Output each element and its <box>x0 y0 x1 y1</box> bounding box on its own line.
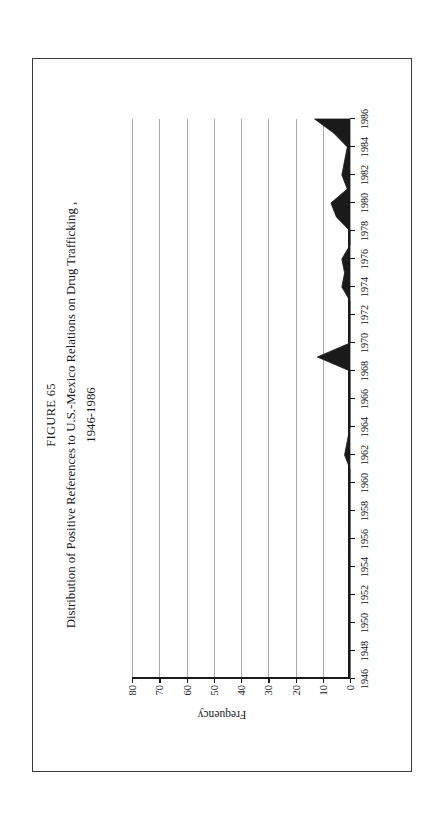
x-tick-mark <box>350 258 355 259</box>
x-tick-label: 1962 <box>359 445 370 465</box>
rotated-figure-wrapper: FIGURE 65 Distribution of Positive Refer… <box>36 65 408 765</box>
y-tick-label: 60 <box>181 685 192 696</box>
x-tick-label: 1956 <box>359 529 370 549</box>
x-tick-label: 1954 <box>359 557 370 577</box>
y-tick-label: 40 <box>236 685 247 696</box>
x-tick-label: 1972 <box>359 305 370 325</box>
x-tick-mark <box>350 650 355 651</box>
x-tick-label: 1950 <box>359 613 370 633</box>
x-tick-mark <box>350 482 355 483</box>
x-tick-label: 1966 <box>359 389 370 409</box>
x-tick-mark <box>350 426 355 427</box>
x-tick-label: 1984 <box>359 137 370 157</box>
x-axis-line <box>348 119 350 679</box>
x-tick-mark <box>350 146 355 147</box>
x-tick-mark <box>350 678 355 679</box>
x-tick-label: 1982 <box>359 165 370 185</box>
y-tick-label: 30 <box>263 685 274 696</box>
x-tick-label: 1958 <box>359 501 370 521</box>
x-tick-label: 1960 <box>359 473 370 493</box>
x-tick-mark <box>350 398 355 399</box>
x-tick-mark <box>350 314 355 315</box>
x-tick-mark <box>350 538 355 539</box>
x-tick-label: 1980 <box>359 193 370 213</box>
y-tick-label: 80 <box>127 685 138 696</box>
x-tick-mark <box>350 230 355 231</box>
x-tick-label: 1978 <box>359 221 370 241</box>
figure-title-block: FIGURE 65 Distribution of Positive Refer… <box>42 65 100 765</box>
x-tick-label: 1948 <box>359 641 370 661</box>
plot-area: 01020304050607080 1946194819501952195419… <box>132 119 350 679</box>
x-tick-label: 1952 <box>359 585 370 605</box>
area-path <box>315 119 350 679</box>
page-border: FIGURE 65 Distribution of Positive Refer… <box>32 58 412 772</box>
plot-inner: 01020304050607080 1946194819501952195419… <box>132 119 350 679</box>
x-tick-mark <box>350 286 355 287</box>
x-tick-label: 1968 <box>359 361 370 381</box>
x-tick-mark <box>350 622 355 623</box>
x-tick-label: 1946 <box>359 669 370 689</box>
y-axis-label: Frequency <box>198 709 247 721</box>
figure-number: FIGURE 65 <box>42 65 60 765</box>
x-tick-label: 1974 <box>359 277 370 297</box>
x-tick-label: 1986 <box>359 109 370 129</box>
y-tick-label: 50 <box>208 685 219 696</box>
figure-container: FIGURE 65 Distribution of Positive Refer… <box>36 65 408 765</box>
x-tick-mark <box>350 370 355 371</box>
y-axis-line <box>132 677 350 679</box>
figure-title: Distribution of Positive References to U… <box>62 65 81 765</box>
x-tick-mark <box>350 594 355 595</box>
x-tick-mark <box>350 454 355 455</box>
x-tick-mark <box>350 174 355 175</box>
x-tick-mark <box>350 118 355 119</box>
area-series <box>132 119 350 679</box>
y-tick-label: 20 <box>290 685 301 696</box>
y-tick-label: 0 <box>345 685 356 690</box>
x-tick-label: 1976 <box>359 249 370 269</box>
x-tick-label: 1970 <box>359 333 370 353</box>
y-tick-label: 70 <box>154 685 165 696</box>
x-tick-label: 1964 <box>359 417 370 437</box>
x-tick-mark <box>350 566 355 567</box>
x-tick-mark <box>350 342 355 343</box>
x-tick-mark <box>350 510 355 511</box>
x-tick-mark <box>350 202 355 203</box>
figure-subtitle: 1946-1986 <box>82 65 101 765</box>
y-tick-label: 10 <box>317 685 328 696</box>
